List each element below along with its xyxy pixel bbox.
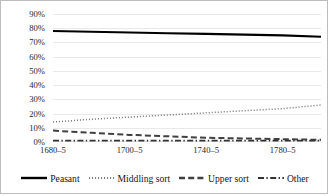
legend-label: Upper sort xyxy=(208,173,249,184)
chart-legend: PeasantMiddling sortUpper sortOther xyxy=(1,164,329,192)
y-axis-tick-labels: 90%80%70%60%50%40%30%20%10%0% xyxy=(1,14,49,142)
legend-item-upper-sort[interactable]: Upper sort xyxy=(179,173,249,184)
y-tick-label: 50% xyxy=(29,67,45,76)
x-tick-label: 1700–5 xyxy=(117,145,143,155)
y-tick-label: 40% xyxy=(29,81,45,90)
legend-swatch-dotted-icon xyxy=(89,173,115,183)
y-tick-label: 30% xyxy=(29,95,45,104)
series-line-peasant xyxy=(53,31,321,37)
y-tick-label: 80% xyxy=(29,24,45,33)
x-tick-label: 1780–5 xyxy=(270,145,296,155)
y-tick-label: 90% xyxy=(29,10,45,19)
legend-item-peasant[interactable]: Peasant xyxy=(21,173,79,184)
x-tick-label: 1680–5 xyxy=(40,145,66,155)
series-lines xyxy=(53,14,321,142)
x-tick-label: 1740–5 xyxy=(193,145,219,155)
legend-item-other[interactable]: Other xyxy=(258,173,309,184)
plot-area xyxy=(53,14,321,142)
y-tick-label: 60% xyxy=(29,52,45,61)
chart-figure: 90%80%70%60%50%40%30%20%10%0% 1680–51700… xyxy=(0,0,328,194)
series-line-upper-sort xyxy=(53,131,321,140)
y-tick-label: 10% xyxy=(29,123,45,132)
x-axis-tick-labels: 1680–51700–51740–51780–5 xyxy=(53,145,321,161)
legend-label: Other xyxy=(287,173,309,184)
legend-swatch-solid-icon xyxy=(21,173,47,183)
legend-item-middling-sort[interactable]: Middling sort xyxy=(89,173,171,184)
legend-label: Peasant xyxy=(50,173,79,184)
y-tick-label: 20% xyxy=(29,109,45,118)
legend-label: Middling sort xyxy=(118,173,171,184)
series-line-middling-sort xyxy=(53,105,321,122)
legend-swatch-dashdot-icon xyxy=(258,173,284,183)
legend-swatch-dashed-icon xyxy=(179,173,205,183)
y-tick-label: 70% xyxy=(29,38,45,47)
